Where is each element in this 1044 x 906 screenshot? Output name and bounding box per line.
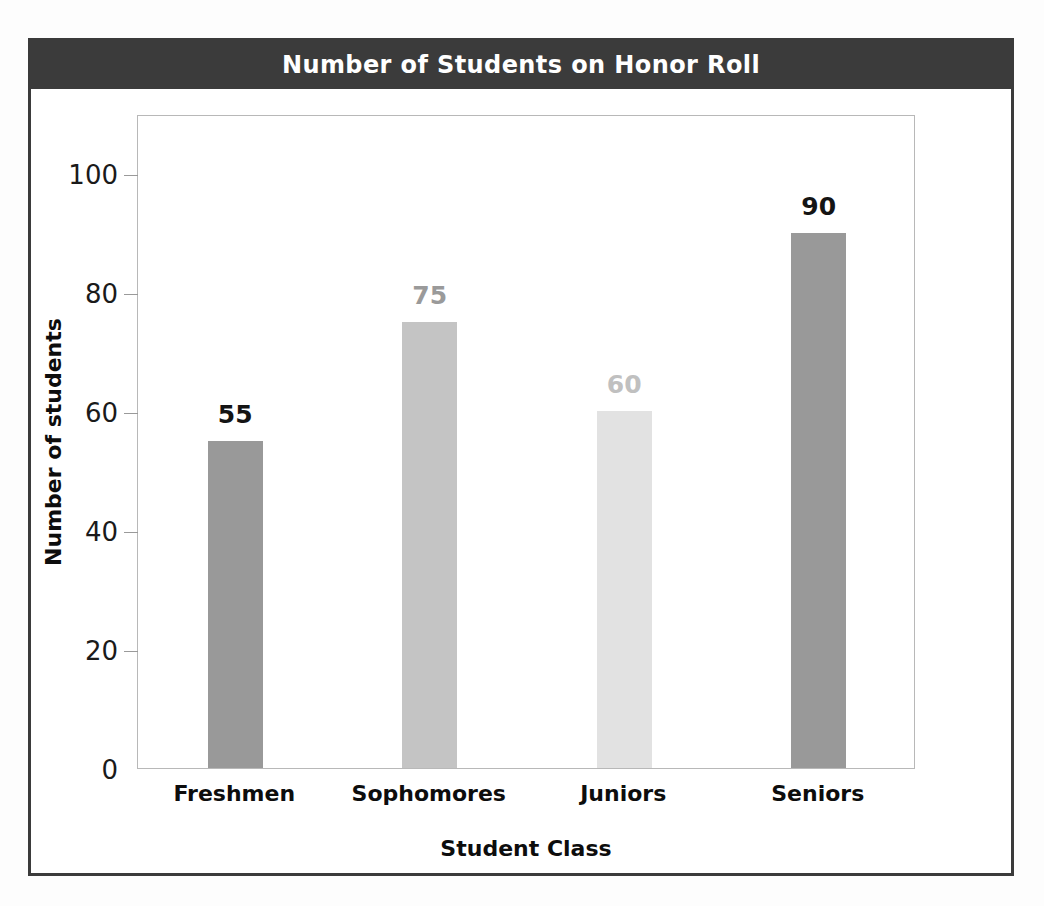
y-axis-tick-label: 20 [85, 636, 118, 666]
y-axis-tick-label: 0 [101, 755, 118, 785]
bar[interactable]: 75 [402, 322, 457, 768]
bar[interactable]: 55 [208, 441, 263, 768]
x-axis-title: Student Class [137, 836, 915, 861]
plot-inner: 02040608010055756090 [138, 116, 914, 768]
chart-page: Number of Students on Honor Roll Number … [0, 0, 1044, 906]
bar-value-label: 55 [218, 400, 253, 429]
x-axis-tick-label: Seniors [721, 781, 916, 806]
y-axis-tick [124, 413, 138, 414]
x-axis-tick-label: Sophomores [332, 781, 527, 806]
x-axis-tick-label: Juniors [526, 781, 721, 806]
plot-area: 02040608010055756090 [137, 115, 915, 769]
chart-title-bar: Number of Students on Honor Roll [31, 41, 1011, 89]
x-axis-tick-label: Freshmen [137, 781, 332, 806]
y-axis-title: Number of students [41, 318, 66, 566]
y-axis-tick [124, 294, 138, 295]
bar-value-label: 60 [607, 370, 642, 399]
y-axis-tick [124, 651, 138, 652]
y-axis-tick-label: 60 [85, 398, 118, 428]
y-axis-tick [124, 532, 138, 533]
bar-value-label: 75 [412, 281, 447, 310]
chart-frame: Number of Students on Honor Roll Number … [28, 38, 1014, 876]
y-axis-tick-label: 80 [85, 279, 118, 309]
y-axis-tick-label: 40 [85, 517, 118, 547]
bar[interactable]: 90 [791, 233, 846, 768]
y-axis-tick-label: 100 [68, 160, 118, 190]
chart-canvas: Number of students Student Class 0204060… [31, 89, 1011, 873]
page-title: Number of Students on Honor Roll [282, 51, 760, 79]
bar[interactable]: 60 [597, 411, 652, 768]
bar-value-label: 90 [801, 192, 836, 221]
y-axis-tick [124, 175, 138, 176]
